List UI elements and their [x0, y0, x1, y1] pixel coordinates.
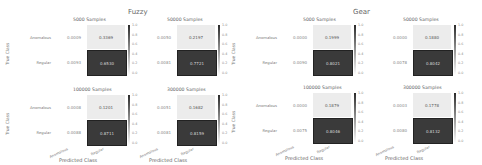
colorbar-tick: 0.2 — [458, 61, 463, 65]
confusion-matrix-panel: 5000 Samples0.00000.19990.00900.80211.00… — [281, 25, 391, 85]
x-axis-label: Predicted Class — [285, 155, 323, 161]
panel-title: 5000 Samples — [73, 17, 106, 22]
colorbar-tick: 0.2 — [358, 129, 363, 133]
matrix-cell: 0.8021 — [313, 50, 353, 76]
colorbar-tick: 0.4 — [132, 52, 137, 56]
colorbar-tick: 0.6 — [222, 42, 227, 46]
matrix-cell: 0.8046 — [313, 118, 353, 144]
colorbar — [128, 25, 130, 75]
panel-title: 300000 Samples — [403, 85, 442, 90]
matrix-cell: 0.8711 — [87, 120, 127, 146]
x-axis-label: Predicted Class — [385, 155, 423, 161]
colorbar — [454, 93, 456, 143]
matrix-cell: 0.1880 — [413, 25, 451, 49]
matrix-cell: 0.8132 — [413, 118, 453, 144]
colorbar-tick: 1.0 — [222, 23, 227, 27]
panel-title: 5000 Samples — [303, 17, 336, 22]
colorbar-tick: 0.8 — [132, 33, 137, 37]
row-label: Anomalous — [256, 103, 277, 108]
colorbar-tick: 0.4 — [222, 52, 227, 56]
group-title: Fuzzy — [128, 8, 148, 16]
heatmap-group-gear: Gear5000 Samples0.00000.19990.00900.8021… — [241, 0, 482, 165]
panel-title: 100000 Samples — [303, 85, 342, 90]
panel-title: 50000 Samples — [167, 17, 203, 22]
x-tick-label: Regular — [180, 147, 194, 156]
colorbar-tick: 1.0 — [458, 23, 463, 27]
colorbar-tick: 0.6 — [358, 42, 363, 46]
panel-title: 50000 Samples — [403, 17, 439, 22]
matrix-cell: 0.2197 — [177, 25, 215, 49]
colorbar-tick: 1.0 — [132, 93, 137, 97]
colorbar-tick: 0.4 — [222, 122, 227, 126]
colorbar-tick: 0.2 — [132, 131, 137, 135]
x-tick-label: Regular — [316, 145, 330, 154]
matrix-cell: 0.8042 — [413, 50, 453, 76]
colorbar-tick: 0.8 — [222, 103, 227, 107]
matrix-cell: 0.1201 — [87, 95, 125, 119]
colorbar-tick: 0.8 — [358, 33, 363, 37]
colorbar — [354, 25, 356, 75]
row-label: Regular — [36, 130, 51, 135]
colorbar-tick: 0.6 — [132, 112, 137, 116]
matrix-cell: 0.8159 — [177, 120, 217, 146]
colorbar-tick: 0.8 — [458, 101, 463, 105]
colorbar — [454, 25, 456, 75]
colorbar-tick: 0.6 — [458, 42, 463, 46]
colorbar-tick: 0.0 — [358, 71, 363, 75]
y-axis-label: True Class — [5, 113, 10, 135]
confusion-matrix-panel: 50000 Samples0.00000.18800.00780.80421.0… — [381, 25, 482, 85]
colorbar-tick: 0.0 — [358, 139, 363, 143]
row-label: Regular — [36, 60, 51, 65]
colorbar-tick: 0.0 — [222, 141, 227, 145]
row-label: Regular — [262, 60, 277, 65]
colorbar-tick: 1.0 — [358, 23, 363, 27]
colorbar-tick: 0.4 — [132, 122, 137, 126]
row-label: Anomalous — [30, 35, 51, 40]
colorbar-tick: 0.0 — [222, 71, 227, 75]
x-tick-label: Regular — [90, 147, 104, 156]
colorbar-tick: 0.0 — [132, 71, 137, 75]
matrix-cell: 0.1778 — [413, 93, 451, 117]
colorbar-tick: 0.2 — [222, 131, 227, 135]
y-axis-label: True Class — [5, 43, 10, 65]
colorbar-tick: 1.0 — [458, 91, 463, 95]
confusion-matrix-panel: 300000 Samples0.00510.16820.00810.81591.… — [145, 95, 255, 155]
x-axis-label: Predicted Class — [149, 157, 187, 163]
x-axis-label: Predicted Class — [59, 157, 97, 163]
confusion-matrix-panel: 50000 Samples0.00500.21970.00810.77211.0… — [145, 25, 255, 85]
colorbar-tick: 0.6 — [458, 110, 463, 114]
confusion-matrix-panel: 100000 Samples0.00000.18790.00750.80461.… — [281, 93, 391, 153]
colorbar-tick: 0.8 — [358, 101, 363, 105]
colorbar-tick: 0.8 — [222, 33, 227, 37]
x-tick-label: Regular — [416, 145, 430, 154]
colorbar-tick: 0.6 — [132, 42, 137, 46]
colorbar-tick: 0.6 — [358, 110, 363, 114]
colorbar — [218, 95, 220, 145]
matrix-cell: 0.3369 — [87, 25, 125, 49]
colorbar-tick: 0.0 — [458, 139, 463, 143]
y-axis-label: True Class — [231, 111, 236, 133]
confusion-matrix-panel: 300000 Samples0.00030.17780.00800.81321.… — [381, 93, 482, 153]
group-title: Gear — [353, 8, 370, 16]
matrix-cell: 0.6530 — [87, 50, 127, 76]
colorbar-tick: 0.4 — [358, 52, 363, 56]
colorbar-tick: 0.6 — [222, 112, 227, 116]
panel-title: 100000 Samples — [73, 87, 112, 92]
colorbar-tick: 0.2 — [458, 129, 463, 133]
colorbar-tick: 0.2 — [132, 61, 137, 65]
y-axis-label: True Class — [231, 43, 236, 65]
row-label: Anomalous — [30, 105, 51, 110]
colorbar-tick: 1.0 — [358, 91, 363, 95]
row-label: Anomalous — [256, 35, 277, 40]
colorbar-tick: 0.8 — [458, 33, 463, 37]
matrix-cell: 0.1879 — [313, 93, 351, 117]
heatmap-group-fuzzy: Fuzzy5000 Samples0.00090.33690.00930.653… — [0, 0, 241, 165]
colorbar-tick: 1.0 — [132, 23, 137, 27]
colorbar — [128, 95, 130, 145]
colorbar-tick: 0.2 — [222, 61, 227, 65]
panel-title: 300000 Samples — [167, 87, 206, 92]
matrix-cell: 0.7721 — [177, 50, 217, 76]
colorbar-tick: 0.2 — [358, 61, 363, 65]
matrix-cell: 0.1682 — [177, 95, 215, 119]
colorbar — [218, 25, 220, 75]
